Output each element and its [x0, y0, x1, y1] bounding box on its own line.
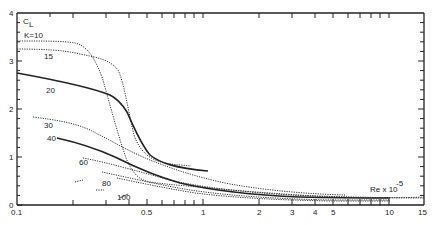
x-tick-1: 1 — [201, 208, 206, 217]
x-tick-0.5: 0.5 — [141, 208, 153, 217]
y-axis-label: C L — [23, 17, 34, 29]
svg-text:-5: -5 — [396, 179, 404, 188]
label-k60: 60 — [79, 158, 88, 167]
x-tick-4: 4 — [313, 208, 318, 217]
x-tick-15: 15 — [418, 208, 427, 217]
x-axis-label: Re x 10 -5 — [370, 179, 404, 194]
x-tick-5: 5 — [331, 208, 336, 217]
x-tick-2: 2 — [257, 208, 262, 217]
curve-labels: K=10 15 20 30 40 60 80 100 — [24, 31, 131, 202]
x-tick-labels: 0.1 0.5 1 2 3 4 5 10 15 — [11, 208, 427, 217]
lift-coefficient-chart: 0 1 2 3 4 0.1 0.5 1 2 3 4 5 10 15 C L Re… — [0, 0, 435, 225]
leader-60 — [75, 180, 83, 182]
x-tick-0.1: 0.1 — [11, 208, 23, 217]
y-ticks — [17, 23, 424, 205]
y-tick-1: 1 — [9, 153, 14, 162]
svg-text:Re x 10: Re x 10 — [370, 185, 398, 194]
label-k10: K=10 — [24, 31, 43, 40]
curves — [17, 41, 424, 201]
x-ticks — [50, 13, 389, 205]
x-tick-3: 3 — [290, 208, 295, 217]
y-tick-3: 3 — [9, 57, 14, 66]
label-k80: 80 — [102, 179, 111, 188]
label-k40: 40 — [47, 134, 56, 143]
y-tick-labels: 0 1 2 3 4 — [9, 9, 14, 210]
svg-text:L: L — [29, 20, 34, 29]
curve-k10 — [17, 41, 424, 198]
x-tick-10: 10 — [385, 208, 394, 217]
curve-k15 — [17, 49, 191, 166]
label-k30: 30 — [44, 121, 53, 130]
curve-k80 — [102, 172, 390, 200]
plot-frame — [17, 13, 424, 205]
curve-k30 — [33, 117, 345, 195]
label-k100: 100 — [117, 193, 131, 202]
y-tick-2: 2 — [9, 105, 14, 114]
label-k20: 20 — [46, 86, 55, 95]
label-k15: 15 — [44, 52, 53, 61]
y-tick-4: 4 — [9, 9, 14, 18]
